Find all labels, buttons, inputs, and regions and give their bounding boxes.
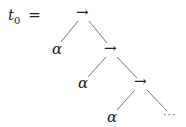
equals-sign: = [28, 6, 41, 24]
edge-arrow3-alpha3 [117, 90, 135, 110]
tree-node-arrow1: → [76, 5, 89, 20]
tree-node-alpha2: α [78, 76, 88, 91]
tree-node-ellipsis: ··· [163, 110, 177, 121]
equation-lhs: t0 = [8, 8, 41, 26]
lhs-subscript: 0 [14, 15, 20, 26]
edge-arrow1-alpha1 [61, 21, 78, 42]
edge-arrow3-ellipsis [147, 90, 167, 111]
tree-node-arrow2: → [104, 41, 117, 56]
tree-node-arrow3: → [134, 74, 147, 89]
tree-node-alpha1: α [52, 42, 62, 57]
edge-arrow2-alpha2 [88, 57, 106, 77]
tree-node-alpha3: α [107, 110, 117, 125]
